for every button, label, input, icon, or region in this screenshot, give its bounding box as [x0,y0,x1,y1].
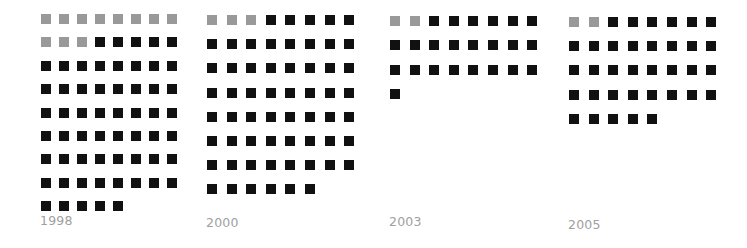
waffle-square-gray [59,14,69,24]
waffle-square-black [41,108,51,118]
waffle-square-black [410,40,420,50]
waffle-square-black [569,90,579,100]
waffle-square-black [647,17,657,27]
waffle-grid [569,17,716,124]
waffle-square-black [266,39,276,49]
waffle-square-black [59,131,69,141]
waffle-square-black [113,61,123,71]
waffle-square-black [344,88,354,98]
waffle-square-black [59,201,69,211]
waffle-square-black [207,112,217,122]
year-label-2003: 2003 [389,214,422,229]
waffle-square-black [410,65,420,75]
waffle-square-black [608,114,618,124]
waffle-square-black [508,40,518,50]
waffle-square-black [344,39,354,49]
waffle-square-black [344,136,354,146]
waffle-square-black [266,15,276,25]
waffle-square-black [569,41,579,51]
waffle-square-black [246,136,256,146]
waffle-square-black [131,108,141,118]
waffle-square-black [449,65,459,75]
waffle-square-gray [390,16,400,26]
waffle-square-black [305,15,315,25]
waffle-square-black [285,39,295,49]
waffle-square-gray [589,17,599,27]
waffle-square-gray [77,14,87,24]
waffle-square-black [449,40,459,50]
waffle-square-black [608,90,618,100]
waffle-square-black [207,160,217,170]
waffle-square-black [569,65,579,75]
waffle-square-black [608,65,618,75]
waffle-square-black [647,114,657,124]
waffle-square-black [227,160,237,170]
waffle-square-black [77,131,87,141]
waffle-square-black [589,90,599,100]
waffle-square-black [113,178,123,188]
waffle-square-gray [95,14,105,24]
waffle-square-black [687,90,697,100]
waffle-grid [207,15,354,194]
waffle-square-black [468,65,478,75]
waffle-square-black [527,16,537,26]
waffle-square-black [167,154,177,164]
waffle-square-black [227,136,237,146]
waffle-square-black [95,131,105,141]
waffle-square-black [687,17,697,27]
waffle-square-black [344,15,354,25]
waffle-square-gray [246,15,256,25]
waffle-square-black [246,184,256,194]
waffle-square-black [41,61,51,71]
waffle-square-black [41,154,51,164]
waffle-square-black [468,40,478,50]
waffle-square-black [589,114,599,124]
waffle-square-black [113,131,123,141]
waffle-square-black [589,41,599,51]
waffle-square-black [285,15,295,25]
year-label-1998: 1998 [40,213,73,228]
waffle-square-black [667,65,677,75]
waffle-square-black [113,84,123,94]
waffle-square-black [390,65,400,75]
waffle-square-gray [149,14,159,24]
waffle-square-black [325,15,335,25]
waffle-square-black [131,37,141,47]
waffle-square-black [628,17,638,27]
waffle-square-black [207,136,217,146]
waffle-square-black [706,90,716,100]
waffle-square-black [325,160,335,170]
waffle-square-black [246,88,256,98]
waffle-square-black [589,65,599,75]
waffle-square-black [468,16,478,26]
waffle-square-black [429,65,439,75]
waffle-square-black [77,201,87,211]
waffle-square-black [305,39,315,49]
waffle-square-black [628,114,638,124]
waffle-square-black [41,84,51,94]
waffle-square-black [266,112,276,122]
waffle-square-black [488,16,498,26]
waffle-square-black [167,37,177,47]
waffle-square-black [246,39,256,49]
waffle-square-black [608,41,618,51]
waffle-square-black [59,154,69,164]
waffle-square-black [41,201,51,211]
waffle-2005 [569,17,716,124]
waffle-square-black [167,84,177,94]
waffle-square-black [488,40,498,50]
waffle-square-black [149,154,159,164]
waffle-square-black [113,154,123,164]
waffle-square-black [167,61,177,71]
waffle-square-black [325,112,335,122]
waffle-square-black [167,131,177,141]
waffle-square-black [227,63,237,73]
waffle-square-black [95,201,105,211]
waffle-square-black [285,184,295,194]
waffle-square-gray [77,37,87,47]
waffle-square-black [149,131,159,141]
waffle-square-black [628,90,638,100]
waffle-square-black [508,16,518,26]
waffle-square-black [266,136,276,146]
waffle-square-black [344,112,354,122]
